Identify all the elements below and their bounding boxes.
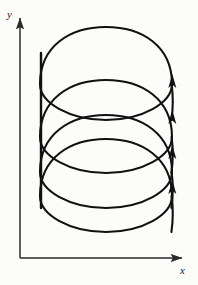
helix-riser-4 [171, 196, 172, 232]
helix-diagram-canvas [0, 0, 198, 285]
helix-turn-1 [40, 27, 172, 84]
helix-turn-4-front [40, 196, 172, 232]
y-axis-label: y [7, 9, 12, 20]
x-axis-label: x [180, 265, 185, 276]
axes-group [20, 18, 182, 258]
helix-turn-3-front [40, 172, 172, 208]
helix-curve-group [40, 27, 173, 232]
helix-turn-2-front [40, 137, 172, 173]
figure-root: y x [0, 0, 198, 285]
helix-turn-4 [40, 139, 172, 196]
